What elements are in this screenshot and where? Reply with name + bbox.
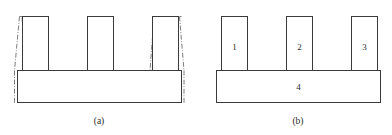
panel-a-pillar-right — [153, 17, 179, 71]
panel-b-label-4: 4 — [296, 82, 301, 92]
panel-a-pillar-middle — [88, 17, 114, 71]
panel-a: (a) — [15, 17, 185, 128]
panel-b-label-3: 3 — [362, 42, 367, 52]
panel-b-caption: (b) — [292, 116, 303, 127]
panel-b: 1 2 3 4 (b) — [217, 17, 381, 128]
two-panel-figure: (a) 1 2 3 4 (b) — [0, 0, 392, 135]
panel-a-pillar-left — [23, 17, 49, 71]
panel-b-label-2: 2 — [297, 42, 302, 52]
panel-a-caption: (a) — [94, 116, 105, 127]
panel-b-label-1: 1 — [232, 42, 237, 52]
panel-a-base-slab — [18, 71, 182, 103]
figure-root: (a) 1 2 3 4 (b) — [0, 0, 392, 135]
chain-left-outer-icon — [15, 17, 20, 71]
chain-right-outer-icon — [180, 17, 185, 71]
